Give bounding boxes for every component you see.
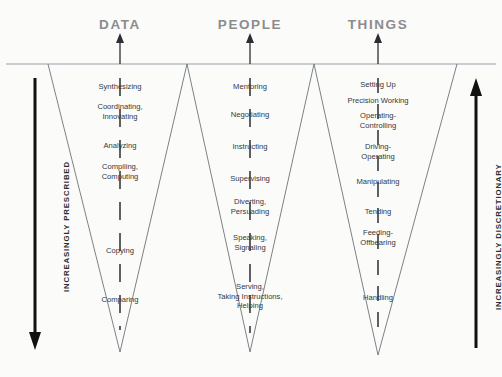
level-item-things: Handling [288,293,468,303]
axis-arrow-discretionary [470,78,482,348]
diagram-canvas: DATA PEOPLE THINGS Synthesizing Coordina… [0,0,502,377]
level-item-things: Driving- Operating [288,142,468,161]
diagram-graphics [0,0,502,377]
level-item-things: Precision Working [288,96,468,106]
level-item-things: Tending [288,207,468,217]
level-item-things: Setting Up [288,80,468,90]
level-item-things: Operating- Controlling [288,111,468,130]
funnel-data-top-arrow-head [116,33,124,43]
level-item-things: Feeding- Offbearing [288,228,468,247]
funnel-people-top-arrow-head [246,33,254,43]
axis-label-increasingly-discretionary: INCREASINGLY DISCRETIONARY [494,163,502,310]
column-header-things: THINGS [348,17,409,32]
level-item-things: Manipulating [288,177,468,187]
column-header-people: PEOPLE [218,17,282,32]
axis-label-increasingly-prescribed: INCREASINGLY PRESCRIBED [62,161,71,292]
funnel-things-top-arrow-head [374,33,382,43]
column-header-data: DATA [99,17,141,32]
